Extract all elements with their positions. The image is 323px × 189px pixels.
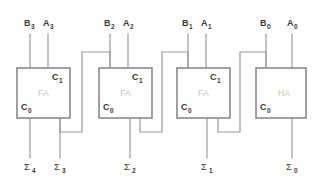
output-label-sigma0: Σ 0 [286,161,298,174]
input-label-a0-sub: 0 [294,23,298,30]
input-label-a3-sub: 3 [50,23,54,30]
block-ha0-type-label: HA [278,88,290,98]
input-label-b2: B 2 [104,18,115,30]
input-label-b1: B 1 [182,18,193,30]
input-label-a2-name: A [123,18,130,28]
input-label-b0: B 0 [260,18,271,30]
block-fa1-carry-in-sub: 0 [188,107,192,114]
ripple-carry-adder-diagram: FA C 1 C 0 FA C 1 C 0 FA C 1 C 0 HA C 0 … [0,0,323,189]
block-fa1-carry-out-sub: 1 [217,77,221,84]
input-label-a2-sub: 2 [130,23,134,30]
input-label-b2-name: B [104,18,111,28]
output-label-sigma1-sub: 1 [209,167,213,174]
output-label-sigma3-sub: 3 [62,167,66,174]
block-ha0-carry-in-label: C [260,102,267,112]
input-label-b0-name: B [260,18,267,28]
input-label-b1-sub: 1 [189,23,193,30]
block-fa3-carry-out-label: C [52,72,59,82]
output-label-sigma2-name: Σ [124,161,130,172]
input-label-b3: B 3 [24,18,35,30]
input-label-a1: A 1 [201,18,212,30]
output-label-sigma3: Σ 3 [54,161,66,174]
output-label-sigma1-name: Σ [201,161,207,172]
output-label-sigma4-sub: 4 [32,167,36,174]
input-label-a3: A 3 [43,18,54,30]
input-label-b1-name: B [182,18,189,28]
block-fa3-carry-in-label: C [21,102,28,112]
input-label-a2: A 2 [123,18,134,30]
output-label-sigma0-name: Σ [286,161,292,172]
input-label-b3-name: B [24,18,31,28]
output-label-sigma1: Σ 1 [201,161,213,174]
block-fa2[interactable]: FA C 1 C 0 [99,68,152,118]
input-label-b2-sub: 2 [111,23,115,30]
block-ha0-carry-in-sub: 0 [267,107,271,114]
input-label-a1-name: A [201,18,208,28]
adder-schematic-canvas: FA C 1 C 0 FA C 1 C 0 FA C 1 C 0 HA C 0 … [0,0,323,189]
block-fa2-carry-out-label: C [132,72,139,82]
output-label-sigma3-name: Σ [54,161,60,172]
block-fa1-type-label: FA [198,88,209,98]
input-label-a1-sub: 1 [208,23,212,30]
input-label-a3-name: A [43,18,50,28]
block-fa2-carry-out-sub: 1 [139,77,143,84]
block-fa2-carry-in-sub: 0 [110,107,114,114]
block-fa3[interactable]: FA C 1 C 0 [17,68,70,118]
block-ha0[interactable]: HA C 0 [256,68,306,118]
output-label-sigma2-sub: 2 [132,167,136,174]
block-fa1[interactable]: FA C 1 C 0 [177,68,230,118]
block-fa1-carry-out-label: C [210,72,217,82]
output-label-sigma4: Σ 4 [24,161,36,174]
input-label-b0-sub: 0 [267,23,271,30]
output-label-sigma2: Σ 2 [124,161,136,174]
input-label-b3-sub: 3 [31,23,35,30]
block-fa3-carry-in-sub: 0 [28,107,32,114]
block-fa3-carry-out-sub: 1 [59,77,63,84]
input-label-a0-name: A [287,18,294,28]
block-fa3-type-label: FA [38,88,49,98]
input-label-a0: A 0 [287,18,298,30]
output-label-sigma4-name: Σ [24,161,30,172]
block-fa2-type-label: FA [120,88,131,98]
output-label-sigma0-sub: 0 [294,167,298,174]
block-fa1-carry-in-label: C [181,102,188,112]
block-fa2-carry-in-label: C [103,102,110,112]
